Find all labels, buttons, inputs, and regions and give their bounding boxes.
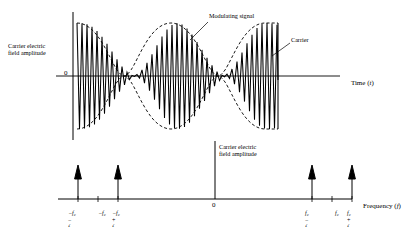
tick-label-neg-fc-minus-fm: −fc − fm <box>62 203 76 227</box>
frequency-axis-label: Frequency (f) <box>356 195 401 218</box>
tick-label-pos-fc-minus-fm: fc − fm <box>299 203 310 227</box>
spectral-line-pos-fc-minus-fm <box>309 165 316 199</box>
spectrum-panel <box>58 141 355 202</box>
time-plot-y-axis-label: Carrier electricfield amplitude <box>8 43 46 57</box>
spectral-line-pos-fc-plus-fm <box>349 165 356 199</box>
tick-label-pos-fc-plus-fm: fc + fm <box>341 203 352 227</box>
time-axis-label-text: Time <box>351 79 366 87</box>
annotation-modulating-signal: Modulating signal <box>209 13 254 20</box>
tick-label-neg-fc: −fc <box>92 203 106 224</box>
spectrum-y-axis-label: Carrier electricfield amplitude <box>219 144 257 158</box>
time-plot-zero-label: 0 <box>64 70 68 78</box>
figure-canvas <box>0 0 419 227</box>
carrier-leader-line <box>272 43 290 56</box>
tick-label-neg-fc-plus-fm: −fc + fm <box>106 203 120 227</box>
frequency-axis-label-text: Frequency <box>363 202 393 210</box>
annotation-carrier: Carrier <box>291 37 309 44</box>
frequency-axis-label-var: f <box>397 202 399 210</box>
am-modulation-figure: Carrier electricfield amplitude 0 Time (… <box>0 0 419 227</box>
time-domain-panel <box>56 12 340 140</box>
time-axis-label-var: t <box>370 79 372 87</box>
envelope-lower <box>77 76 278 129</box>
spectral-line-neg-fc-minus-fm <box>75 165 82 199</box>
spectral-line-neg-fc-plus-fm <box>115 165 122 199</box>
spectrum-zero-label: 0 <box>212 202 216 210</box>
modulating-signal-leader-line <box>190 22 208 40</box>
time-axis-label: Time (t) <box>344 72 374 95</box>
tick-label-pos-fc: fc <box>329 203 339 224</box>
